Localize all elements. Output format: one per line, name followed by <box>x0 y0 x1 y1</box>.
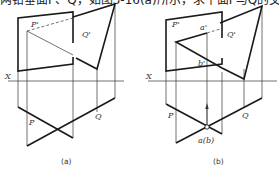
plane-q-top <box>176 98 262 143</box>
label-axis-x: X <box>4 72 11 81</box>
label-b-front: b' <box>198 59 205 68</box>
plane-p-top <box>18 107 73 138</box>
caption-b: (b) <box>213 157 224 166</box>
label-q-top: Q <box>242 111 249 120</box>
label-q-front: Q' <box>227 30 236 39</box>
plane-q-front <box>73 4 115 69</box>
label-a-front: a' <box>200 23 207 32</box>
label-ab-top: a(b) <box>198 136 214 145</box>
intersection-point-ab <box>205 125 209 129</box>
hidden-line <box>207 29 220 33</box>
label-p-top: P <box>28 118 35 127</box>
caption-a: (a) <box>61 157 72 166</box>
label-axis-x: X <box>145 72 152 81</box>
plane-p-top <box>166 104 222 134</box>
label-p-top: P <box>167 111 174 120</box>
arrow-up-icon <box>205 103 208 109</box>
label-p-front: P' <box>30 20 39 29</box>
label-q-front: Q' <box>82 30 91 39</box>
figure-b: P' a' Q' b' X P Q a(b) (b) <box>145 6 277 166</box>
plane-q-top <box>27 98 115 146</box>
plane-p-front <box>18 12 73 71</box>
label-q-top: Q <box>95 112 102 121</box>
projection-diagrams: P' Q' X P Q (a) P' a' Q' b' <box>0 0 279 172</box>
inner-line <box>27 31 73 55</box>
figure-a: P' Q' X P Q (a) <box>4 4 124 166</box>
label-p-front: P' <box>171 20 180 29</box>
